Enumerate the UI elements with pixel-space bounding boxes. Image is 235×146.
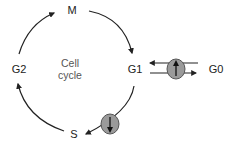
- g0-exchange-marker: [167, 59, 185, 79]
- center-label-line2: cycle: [58, 69, 82, 81]
- arrow-g2-to-m: [19, 13, 54, 54]
- phase-label-g0: G0: [209, 63, 224, 75]
- phase-label-m: M: [67, 4, 76, 16]
- g1-s-marker: [101, 114, 119, 134]
- center-label-line1: Cell: [61, 57, 79, 69]
- phase-label-g1: G1: [128, 63, 143, 75]
- arrow-s-to-g2: [18, 84, 64, 131]
- phase-label-g2: G2: [12, 63, 27, 75]
- arrow-m-to-g1: [89, 11, 132, 53]
- phase-label-s: S: [70, 128, 77, 140]
- cell-cycle-diagram: M G2 G1 S G0 Cell cycle: [0, 0, 235, 146]
